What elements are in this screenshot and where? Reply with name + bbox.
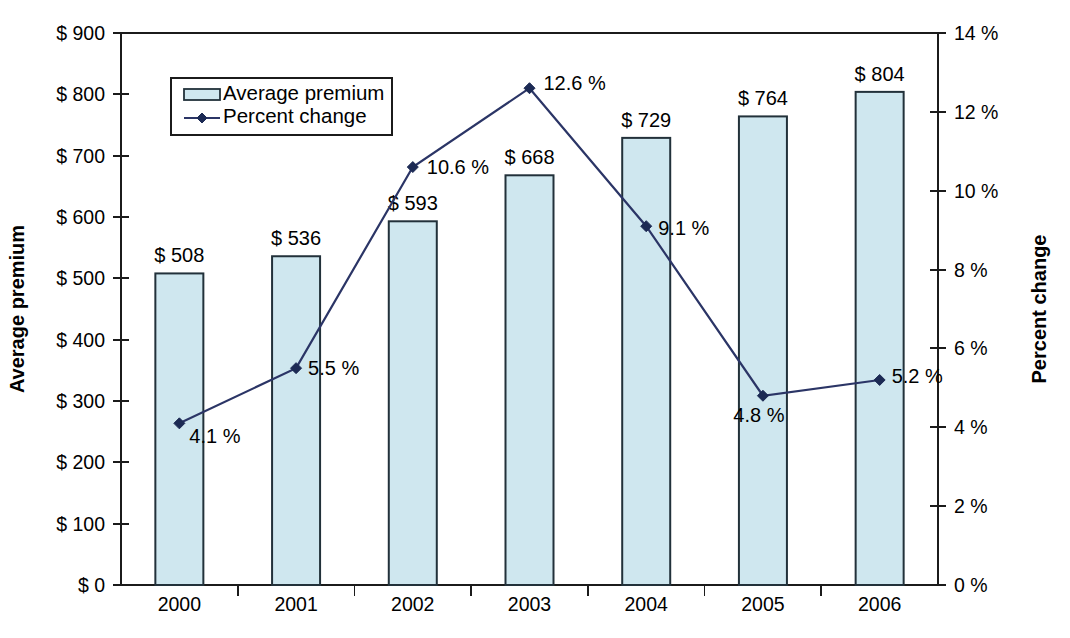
percent-change-label: 4.8 % [733,404,784,426]
left-axis-tick-label: $ 200 [56,451,105,473]
x-axis-tick-label: 2003 [508,593,551,615]
right-axis-tick-label: 14 % [954,22,998,44]
percent-change-label: 5.2 % [892,365,943,387]
percent-change-label: 4.1 % [189,425,240,447]
bar[interactable] [739,116,787,585]
bar-value-label: $ 536 [271,227,321,249]
combo-chart: $ 0$ 100$ 200$ 300$ 400$ 500$ 600$ 700$ … [0,0,1070,638]
y-axis-title-right: Percent change [1028,235,1050,384]
x-axis-tick-label: 2004 [625,593,669,615]
percent-change-label: 10.6 % [427,156,489,178]
percent-change-label: 5.5 % [308,357,359,379]
x-axis-tick-label: 2005 [741,593,785,615]
bar-value-label: $ 804 [855,63,905,85]
legend-swatch-average-premium [184,89,220,100]
right-axis-tick-label: 12 % [954,101,998,123]
right-axis-tick-label: 2 % [954,495,988,517]
right-axis-tick-label: 10 % [954,180,998,202]
left-axis-tick-label: $ 800 [56,83,105,105]
chart-container: $ 0$ 100$ 200$ 300$ 400$ 500$ 600$ 700$ … [0,0,1070,638]
left-axis-tick-label: $ 900 [56,22,105,44]
x-axis-tick-label: 2002 [391,593,434,615]
left-axis-tick-label: $ 300 [56,390,105,412]
bar[interactable] [389,221,437,585]
bar[interactable] [272,256,320,585]
left-axis-tick-label: $ 0 [78,574,105,596]
left-axis-tick-label: $ 400 [56,329,105,351]
left-axis-tick-label: $ 100 [56,513,105,535]
right-axis-tick-label: 8 % [954,259,988,281]
x-axis-tick-label: 2001 [274,593,317,615]
percent-change-label: 9.1 % [658,217,709,239]
left-axis-tick-label: $ 600 [56,206,105,228]
right-axis-tick-label: 0 % [954,574,988,596]
bar[interactable] [856,92,904,585]
x-axis-tick-label: 2006 [858,593,901,615]
right-axis-tick-label: 6 % [954,337,988,359]
y-axis-title-left: Average premium [6,225,28,393]
legend-label-percent-change: Percent change [223,104,367,127]
x-axis-tick-label: 2000 [158,593,202,615]
bar-value-label: $ 729 [621,109,671,131]
bar[interactable] [506,175,554,585]
legend-label-average-premium: Average premium [223,81,384,104]
bar-value-label: $ 668 [504,146,554,168]
percent-change-label: 12.6 % [544,72,606,94]
bar-value-label: $ 508 [154,244,204,266]
right-axis-tick-label: 4 % [954,416,988,438]
chart-legend: Average premiumPercent change [171,78,392,135]
left-axis-tick-label: $ 700 [56,145,105,167]
bar-value-label: $ 764 [738,87,788,109]
left-axis-tick-label: $ 500 [56,267,105,289]
